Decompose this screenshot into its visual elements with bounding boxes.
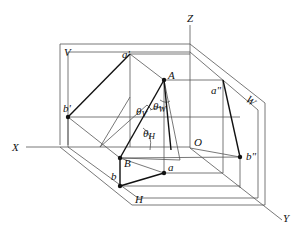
point-b-prime bbox=[66, 115, 70, 119]
label-a: a bbox=[168, 161, 174, 173]
label-H: H bbox=[134, 193, 144, 205]
point-A bbox=[162, 78, 166, 82]
y-axis bbox=[190, 148, 282, 220]
label-b-double-prime: b" bbox=[246, 150, 257, 162]
point-a bbox=[162, 171, 166, 175]
label-a-double-prime: a" bbox=[211, 84, 222, 96]
label-theta-V: θV bbox=[136, 105, 148, 119]
point-B bbox=[118, 156, 122, 160]
label-B: B bbox=[124, 157, 131, 169]
label-X: X bbox=[11, 141, 20, 153]
line-a-prime-b-prime bbox=[68, 54, 130, 117]
point-b-double-prime bbox=[238, 155, 242, 159]
w-plane bbox=[190, 44, 265, 205]
label-theta-H: θH bbox=[143, 127, 155, 141]
label-O: O bbox=[194, 136, 202, 148]
line-a2-b2 bbox=[223, 80, 240, 157]
label-a-prime: a' bbox=[122, 48, 131, 60]
construction-lines bbox=[68, 54, 240, 188]
projection-diagram: Z X Y O V W H A B a' b' b a a" b" θV θW … bbox=[0, 0, 301, 237]
point-b bbox=[118, 184, 122, 188]
line-AB bbox=[120, 80, 164, 158]
line-ab bbox=[120, 173, 164, 186]
line-A-down bbox=[164, 80, 171, 150]
label-b: b bbox=[111, 170, 117, 182]
label-W: W bbox=[244, 93, 259, 109]
label-Y: Y bbox=[283, 212, 291, 224]
label-A: A bbox=[167, 69, 175, 81]
label-b-prime: b' bbox=[63, 102, 72, 114]
label-Z: Z bbox=[187, 12, 194, 24]
